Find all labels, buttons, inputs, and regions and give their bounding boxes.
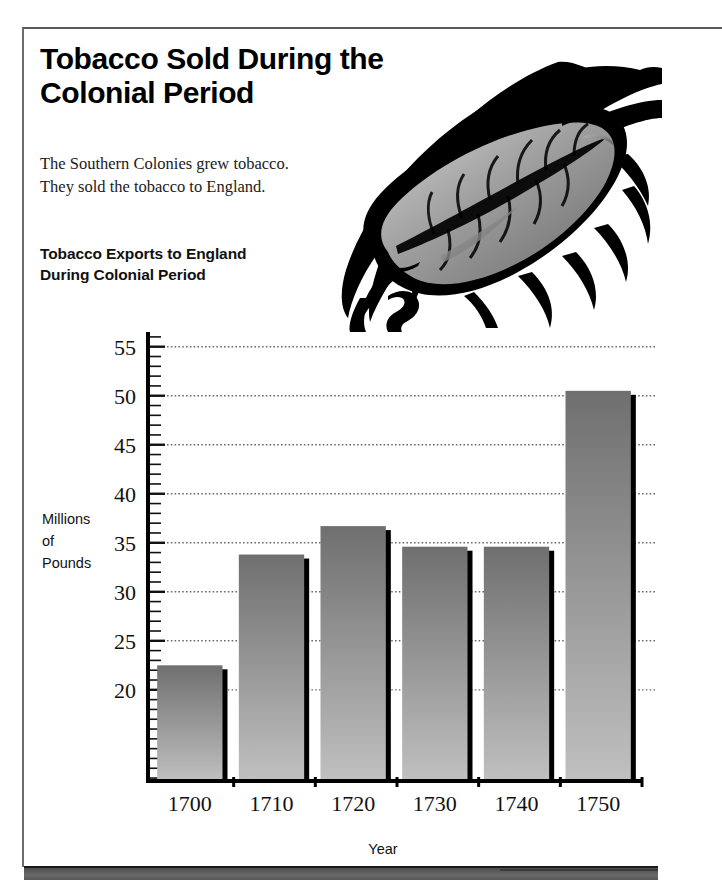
- x-tick-label: 1710: [250, 791, 294, 816]
- y-tick-label: 25: [114, 629, 136, 654]
- bar-1710: [239, 555, 304, 781]
- y-tick-label: 55: [114, 335, 136, 360]
- y-tick-label: 50: [114, 384, 136, 409]
- y-axis-title-line-1: Millions: [42, 511, 90, 527]
- x-tick-label: 1720: [331, 791, 375, 816]
- bar-1750: [566, 391, 631, 781]
- y-axis-title: Millions of Pounds: [42, 511, 91, 571]
- y-axis-tick-labels: 2025303540455055: [114, 335, 136, 703]
- y-tick-label: 35: [114, 531, 136, 556]
- bar-1720: [321, 526, 386, 781]
- x-tick-label: 1750: [576, 791, 620, 816]
- y-axis-title-line-3: Pounds: [42, 555, 91, 571]
- y-tick-label: 30: [114, 580, 136, 605]
- x-tick-label: 1730: [413, 791, 457, 816]
- x-axis-tick-labels: 170017101720173017401750: [168, 791, 620, 816]
- bar-1700: [157, 665, 222, 781]
- x-tick-label: 1700: [168, 791, 212, 816]
- footer-strip-tail: [500, 869, 658, 871]
- bar-1730: [402, 547, 467, 781]
- x-axis-title: Year: [368, 841, 397, 857]
- y-tick-label: 20: [114, 678, 136, 703]
- y-tick-label: 45: [114, 433, 136, 458]
- bars-group: [157, 391, 642, 787]
- x-tick-label: 1740: [495, 791, 539, 816]
- y-tick-label: 40: [114, 482, 136, 507]
- bar-1740: [484, 547, 549, 781]
- y-axis-title-line-2: of: [42, 533, 55, 549]
